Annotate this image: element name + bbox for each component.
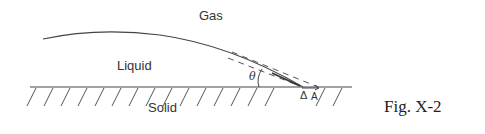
- solid-label: Solid: [148, 101, 177, 114]
- solid-hatching: [27, 88, 342, 106]
- liquid-gas-interface: [43, 32, 303, 87]
- contact-angle-label: θ: [249, 71, 256, 82]
- gas-label: Gas: [199, 9, 223, 22]
- contact-angle-arc: [258, 69, 262, 87]
- liquid-label: Liquid: [117, 59, 152, 72]
- delta-symbol: Δ: [300, 90, 307, 101]
- point-a-label: A: [311, 92, 318, 102]
- figure-caption: Fig. X-2: [384, 98, 442, 115]
- tangent-segment: [272, 73, 300, 86]
